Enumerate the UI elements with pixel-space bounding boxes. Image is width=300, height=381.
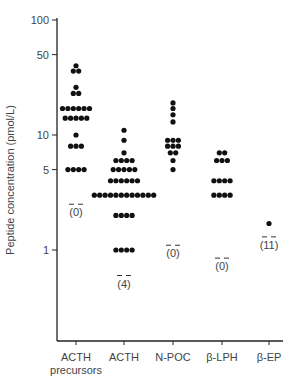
- data-point: [151, 193, 156, 198]
- data-point: [222, 150, 227, 155]
- data-point: [124, 178, 129, 183]
- data-point: [124, 247, 129, 252]
- data-point: [108, 193, 113, 198]
- data-point: [73, 85, 78, 90]
- data-point: [82, 167, 87, 172]
- y-tick-label: 100: [31, 14, 49, 26]
- y-axis-label: Peptide concentration (pmol/L): [4, 105, 16, 255]
- data-point: [73, 63, 78, 68]
- data-point: [121, 138, 126, 143]
- not-detected-count: (0): [69, 206, 82, 218]
- x-category-label: β-EP: [257, 351, 282, 363]
- data-point: [73, 132, 78, 137]
- data-point: [73, 144, 78, 149]
- data-point: [121, 167, 126, 172]
- x-category-label: precursors: [50, 364, 102, 376]
- data-point: [71, 106, 76, 111]
- data-point: [84, 116, 89, 121]
- data-point: [217, 193, 222, 198]
- data-point: [82, 106, 87, 111]
- data-point: [124, 158, 129, 163]
- data-point: [76, 106, 81, 111]
- data-point: [170, 158, 175, 163]
- data-point: [113, 247, 118, 252]
- data-point: [71, 91, 76, 96]
- data-point: [113, 158, 118, 163]
- not-detected-count: (4): [117, 278, 130, 290]
- data-point: [76, 68, 81, 73]
- data-point: [119, 193, 124, 198]
- data-point: [211, 193, 216, 198]
- y-axis-ticks: 100501051: [31, 14, 57, 256]
- data-point: [63, 116, 68, 121]
- data-point: [228, 178, 233, 183]
- data-point: [170, 167, 175, 172]
- data-point: [92, 193, 97, 198]
- data-point: [103, 193, 108, 198]
- data-point: [76, 91, 81, 96]
- data-point: [119, 158, 124, 163]
- data-point: [173, 150, 178, 155]
- data-point: [228, 193, 233, 198]
- data-point: [111, 167, 116, 172]
- dot-plot-chart: Peptide concentration (pmol/L) 100501051…: [0, 0, 300, 381]
- data-point: [165, 138, 170, 143]
- data-point: [135, 178, 140, 183]
- data-point: [217, 150, 222, 155]
- detection-limit-labels: (0)(4)(0)(0)(11): [69, 204, 278, 289]
- data-point: [76, 167, 81, 172]
- data-point: [146, 193, 151, 198]
- data-point: [170, 138, 175, 143]
- data-point: [119, 247, 124, 252]
- data-point: [130, 178, 135, 183]
- data-point: [87, 106, 92, 111]
- data-point: [140, 193, 145, 198]
- data-point: [119, 178, 124, 183]
- data-point: [73, 116, 78, 121]
- x-category-label: ACTH: [61, 351, 91, 363]
- axes: [57, 18, 283, 341]
- y-tick-label: 50: [37, 49, 49, 61]
- x-category-label: N-POC: [155, 351, 191, 363]
- data-point: [176, 138, 181, 143]
- data-point: [217, 178, 222, 183]
- data-point: [65, 167, 70, 172]
- data-point: [71, 167, 76, 172]
- data-point: [165, 144, 170, 149]
- data-point: [124, 213, 129, 218]
- data-point: [116, 167, 121, 172]
- y-tick-label: 5: [43, 164, 49, 176]
- data-point: [130, 193, 135, 198]
- not-detected-count: (0): [215, 260, 228, 272]
- data-point: [214, 158, 219, 163]
- data-point: [113, 213, 118, 218]
- data-point: [108, 178, 113, 183]
- data-point: [97, 193, 102, 198]
- data-point: [130, 158, 135, 163]
- data-point: [79, 116, 84, 121]
- not-detected-count: (11): [260, 239, 279, 251]
- data-point: [65, 106, 70, 111]
- x-category-label: β-LPH: [206, 351, 237, 363]
- x-category-label: ACTH: [109, 351, 139, 363]
- data-point: [121, 150, 126, 155]
- data-point: [266, 221, 271, 226]
- y-tick-label: 10: [37, 129, 49, 141]
- data-point: [130, 213, 135, 218]
- data-point: [219, 158, 224, 163]
- data-point: [222, 178, 227, 183]
- data-point: [121, 128, 126, 133]
- data-points: [60, 63, 272, 252]
- data-point: [222, 193, 227, 198]
- data-point: [130, 247, 135, 252]
- data-point: [170, 112, 175, 117]
- data-point: [170, 100, 175, 105]
- data-point: [225, 158, 230, 163]
- data-point: [71, 68, 76, 73]
- data-point: [176, 144, 181, 149]
- data-point: [119, 213, 124, 218]
- data-point: [124, 193, 129, 198]
- x-axis-ticks: ACTHprecursorsACTHN-POCβ-LPHβ-EP: [50, 341, 281, 376]
- data-point: [113, 193, 118, 198]
- data-point: [211, 178, 216, 183]
